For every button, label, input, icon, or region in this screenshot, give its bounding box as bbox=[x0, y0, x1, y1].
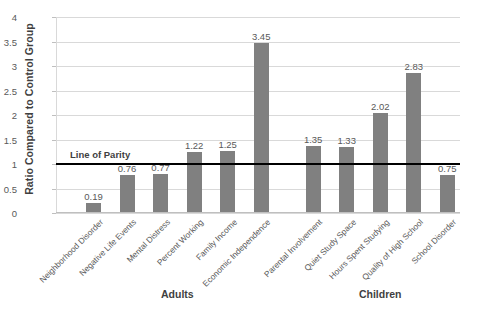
bar-chart: Ratio Compared to Control Group 00.511.5… bbox=[0, 0, 483, 313]
bar-value-label: 3.45 bbox=[252, 31, 271, 42]
line-of-parity-label: Line of Parity bbox=[70, 149, 130, 160]
x-tick-label-text: Quality of High School bbox=[360, 217, 425, 282]
bar-value-label: 1.33 bbox=[337, 135, 356, 146]
bar-value-label: 1.22 bbox=[185, 140, 204, 151]
y-tick-label: 3 bbox=[0, 61, 17, 72]
y-tick-label: 1 bbox=[0, 159, 17, 170]
y-tick-label: 0.5 bbox=[0, 183, 17, 194]
plot-area: 0.190.760.771.221.253.451.351.332.022.83… bbox=[56, 17, 460, 213]
y-tick-label: 1.5 bbox=[0, 134, 17, 145]
y-tick-label: 2 bbox=[0, 110, 17, 121]
y-tick-label: 3.5 bbox=[0, 36, 17, 47]
gridline bbox=[56, 17, 460, 18]
y-axis-line bbox=[56, 17, 57, 213]
bar-value-label: 2.02 bbox=[371, 101, 390, 112]
x-tick-label-text: Neighborhood Disorder bbox=[37, 217, 105, 285]
bar-value-label: 2.83 bbox=[404, 61, 423, 72]
y-axis-title: Ratio Compared to Control Group bbox=[23, 9, 35, 209]
x-tick-label-text: Parental Involvement bbox=[262, 217, 324, 279]
x-tick-label-text: Hours Spent Studying bbox=[327, 217, 391, 281]
bar-value-label: 1.25 bbox=[218, 139, 237, 150]
group-label: Children bbox=[359, 288, 402, 300]
bar bbox=[86, 203, 101, 212]
bar-value-label: 0.19 bbox=[84, 191, 103, 202]
bar-value-label: 1.35 bbox=[304, 134, 323, 145]
y-tick-label: 0 bbox=[0, 208, 17, 219]
y-tick-label: 2.5 bbox=[0, 85, 17, 96]
y-tick-mark bbox=[52, 213, 56, 214]
group-label: Adults bbox=[161, 288, 194, 300]
x-tick-label-text: Negative Life Events bbox=[77, 217, 138, 278]
x-tick-label-text: Economic Independence bbox=[201, 217, 273, 289]
y-tick-label: 4 bbox=[0, 12, 17, 23]
line-of-parity bbox=[56, 163, 460, 166]
